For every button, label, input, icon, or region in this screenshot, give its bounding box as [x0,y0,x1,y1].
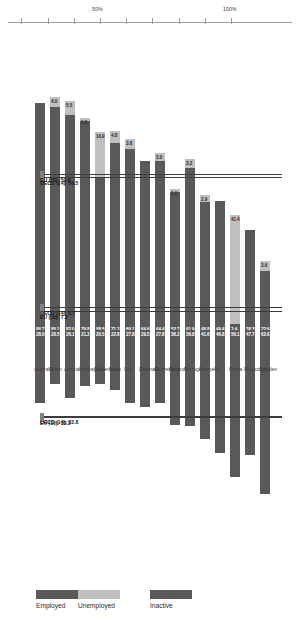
category-label: Mexico (a) [244,366,267,372]
bar-inactive [80,330,90,386]
bar-value-inactive: 62.6 [261,332,270,337]
bar-value-inactive: 22.8 [111,332,120,337]
average-annotation: EU (10): 33.2 [40,420,71,426]
legend-group-inactive: Inactive [150,590,192,609]
bar-value-inactive: 28.0 [36,332,45,337]
bar-inactive [200,330,210,439]
bar-value-inactive: 20.5 [96,332,105,337]
axis-tick-label: 50% [92,6,103,12]
bar-employed [260,271,270,330]
value-axis-line [8,22,292,23]
bar-value-unemployed: 1.0 [171,191,177,196]
bar-employed [170,192,180,330]
bar-inactive [110,330,120,390]
legend-swatch-employed [36,590,78,599]
legend-swatch-unemployed [78,590,120,599]
average-line [42,174,282,175]
category-label: Denmark [139,366,159,372]
average-annotation: EU (10): 59.6 [40,177,71,183]
axis-tick [21,18,22,24]
bar-employed [80,121,90,330]
legend-swatch-inactive [150,590,192,599]
legend-label-inactive: Inactive [150,602,192,609]
bar-value-inactive: 29.5 [141,332,150,337]
bar-employed [140,161,150,330]
bar-value-inactive: 36.8 [186,332,195,337]
chart-canvas: 100%50%10%0%10%50%22.63.662.6Sweden38.34… [0,0,300,636]
bar-value-inactive: 27.8 [156,332,165,337]
legend-group-employment: Employed Unemployed [36,590,120,609]
bar-value-inactive: 46.8 [216,332,225,337]
average-line [42,417,282,418]
legend-swatches-inactive [150,590,192,599]
legend-label-unemployed: Unemployed [78,602,120,609]
bar-value-unemployed: 3.8 [126,141,132,146]
bar-value-inactive: 27.8 [126,332,135,337]
bar-value-unemployed: 41.4 [231,217,240,222]
bar-value-inactive: 47.7 [246,332,255,337]
average-line [42,177,282,178]
bar-value-inactive: 41.6 [201,332,210,337]
axis-tick [74,18,75,24]
legend-labels-inactive: Inactive [150,602,192,609]
bar-unemployed [95,132,105,176]
bar-employed [50,107,60,330]
bar-employed [65,115,75,330]
chart-legend: Employed Unemployed Inactive [36,590,266,614]
category-label: US [124,366,131,372]
bar-value-unemployed: 3.6 [261,263,267,268]
bar-inactive [185,330,195,426]
bar-value-unemployed: 2.9 [201,197,207,202]
legend-swatches [36,590,120,599]
axis-tick [205,18,206,24]
legend-labels: Employed Unemployed [36,602,120,609]
bar-value-unemployed: 4.8 [111,133,117,138]
bar-value-inactive: 56.1 [231,332,240,337]
bar-inactive [215,330,225,453]
bar-employed [110,143,120,330]
category-label: Australia [34,366,53,372]
axis-tick [100,18,101,24]
bar-value-unemployed: 16.9 [96,134,105,139]
axis-tick [48,18,49,24]
bar-employed [155,161,165,330]
average-line [42,307,282,308]
bar-value-unemployed: 4.0 [51,99,57,104]
category-label: Norway (a) [79,366,103,372]
axis-tick [126,18,127,24]
bar-inactive [170,330,180,425]
bar-value-inactive: 26.1 [66,332,75,337]
bar-value-unemployed: 5.5 [66,103,72,108]
axis-tick [231,18,232,24]
bar-inactive [230,330,240,477]
rotated-chart-group: 100%50%10%0%10%50%22.63.662.6Sweden38.34… [0,0,300,636]
legend-label-employed: Employed [36,602,78,609]
bar-employed [35,103,45,330]
bar-value-inactive: 36.2 [171,332,180,337]
bar-inactive [65,330,75,398]
axis-tick-label: 100% [223,6,237,12]
bar-value-inactive: 21.2 [81,332,90,337]
axis-tick [179,18,180,24]
bar-inactive [260,330,270,494]
bar-value-unemployed: 3.2 [186,161,192,166]
bar-value-inactive: 20.5 [51,332,60,337]
category-label: Austria [64,366,80,372]
bar-inactive [245,330,255,455]
bar-employed [245,230,255,330]
bar-value-unemployed: 3.0 [156,155,162,160]
bar-employed [185,168,195,330]
axis-tick [152,18,153,24]
bar-inactive [95,330,105,384]
plot-area: 100%50%10%0%10%50%22.63.662.6Sweden38.34… [0,0,300,636]
bar-value-unemployed: 1.0 [81,120,87,125]
category-label: Korea [229,366,242,372]
bar-inactive [50,330,60,384]
average-line [42,311,282,312]
average-annotation: OECD (14): 8.7 [40,310,75,316]
